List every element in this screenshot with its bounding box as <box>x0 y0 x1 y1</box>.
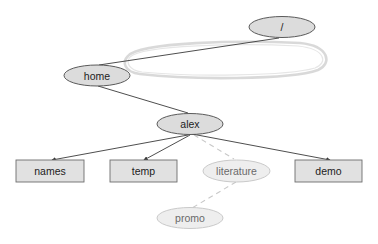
node-root[interactable]: / <box>249 17 315 38</box>
node-literature[interactable]: literature <box>203 160 270 182</box>
node-label: / <box>281 21 284 33</box>
directory-tree-diagram: / home alex names temp literature demo p… <box>0 0 378 244</box>
node-home[interactable]: home <box>64 65 130 86</box>
loop-highlight <box>125 42 326 78</box>
node-demo[interactable]: demo <box>295 160 362 182</box>
node-names[interactable]: names <box>16 160 84 182</box>
edge-root-home <box>99 38 279 65</box>
node-label: promo <box>175 212 205 224</box>
node-label: names <box>34 165 66 177</box>
node-label: temp <box>132 165 156 177</box>
node-label: home <box>84 70 110 82</box>
edge-literature-promo <box>192 182 236 208</box>
edge-home-alex <box>98 86 188 113</box>
node-temp[interactable]: temp <box>110 160 177 182</box>
node-label: alex <box>180 118 200 130</box>
node-label: literature <box>216 165 257 177</box>
node-label: demo <box>315 165 341 177</box>
node-alex[interactable]: alex <box>157 114 223 135</box>
edge-alex-demo <box>192 134 330 160</box>
node-promo[interactable]: promo <box>157 208 223 229</box>
